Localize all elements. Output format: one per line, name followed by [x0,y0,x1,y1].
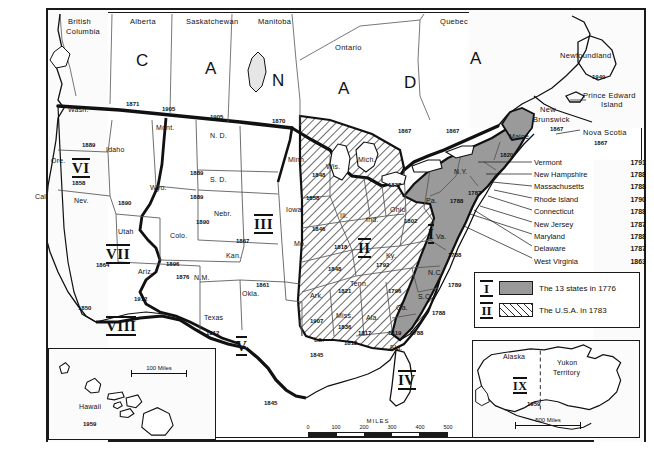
callout-row: Rhode Island 1790 [534,193,646,205]
state-label: Ind. [366,216,378,223]
state-label: N.M. [194,274,210,281]
callout-state-name: Rhode Island [534,195,578,204]
callout-state-name: Maryland [534,232,565,241]
callout-state-year: 1863 [630,258,646,265]
region-marker-i: I [428,224,434,244]
province-label: British [68,18,91,26]
northeast-state-callouts: Vermont 1791 New Hampshire 1788 Massachu… [534,156,646,268]
province-label: Prince Edward [583,92,636,100]
province-label: Brunswick [533,116,570,124]
callout-state-year: 1788 [630,171,646,178]
region-marker-iv: IV [398,370,416,390]
state-label: Pa. [426,197,437,204]
province-label: Newfoundland [560,52,612,60]
region-marker-viii: VIII [106,316,136,336]
legend-swatch-hatch [499,303,533,317]
state-label: Mont. [156,124,175,131]
alaska-scale-bar [515,425,581,426]
callout-state-year: 1788 [630,233,646,240]
callout-state-name: Massachusetts [534,182,584,191]
state-label: Ark. [310,292,323,299]
scale-tick: 300 [387,424,396,430]
date-label: 1819 [388,330,401,336]
alaska-region-marker: IX [513,377,527,394]
legend-label-usa-1783: The U.S.A. in 1783 [539,306,607,315]
date-label: 1788 [432,310,445,316]
state-label: Ohio [390,206,406,213]
alaska-label: Alaska [503,353,525,360]
date-label: 1820 [500,152,513,158]
callout-state-name: Vermont [534,158,562,167]
state-label: Ill. [340,212,348,219]
date-label: 1821 [338,288,351,294]
state-label: Texas [204,314,223,321]
date-label: 1876 [176,274,189,280]
region-marker-v: V [236,336,247,356]
state-label: Miss. [336,312,353,319]
date-label: 1817 [358,330,371,336]
date-label: 1787 [468,190,481,196]
callout-state-year: 1787 [630,245,646,252]
date-label: 1792 [376,262,389,268]
callout-state-year: 1787 [630,221,646,228]
state-label: Wyo. [150,184,167,191]
scale-tick: 100 [331,424,340,430]
date-label: 1889 [190,194,203,200]
date-label: 1812 [344,340,357,346]
date-label: 1788 [448,252,461,258]
date-label: 1890 [118,200,131,206]
date-label: 1845 [310,352,323,358]
date-label: 1789 [448,282,461,288]
date-label: 1861 [256,282,269,288]
state-label: Okla. [242,290,259,297]
date-label: 1788 [410,330,423,336]
state-label: Ore. [51,157,65,164]
region-marker-ii: II [358,238,371,258]
hawaii-inset: Hawaii 1959 100 Miles [48,348,216,440]
state-label: S.C. [418,293,432,300]
date-label: 1848 [328,266,341,272]
date-label: 1836 [338,324,351,330]
state-label: Wis. [326,163,340,170]
date-label: 1867 [550,126,563,132]
date-label: 1867 [446,128,459,134]
alaska-scale-label: 500 Miles [515,417,581,423]
date-label: 1889 [82,142,95,148]
state-label: Mo. [294,240,306,247]
state-label: Ga. [396,304,408,311]
state-label: N. D. [210,132,227,139]
date-label: 1837 [388,182,401,188]
yukon-label-1: Yukon [557,359,577,366]
state-label: Minn. [288,156,306,163]
date-label: 1896 [166,261,179,267]
date-label: 1867 [594,140,607,146]
province-label: New [540,106,556,114]
state-label: N.C. [428,269,443,276]
hawaii-scale-bar [131,373,187,374]
legend-swatch-solid [499,281,533,295]
state-label: Wash. [68,106,89,113]
callout-row: Delaware 1787 [534,243,646,255]
callout-row: Connecticut 1788 [534,206,646,218]
region-marker-iii: III [254,214,273,234]
legend-roman-i: I [480,280,493,297]
alaska-year: 1959 [527,401,540,407]
date-label: 1845 [264,400,277,406]
date-label: 1850 [78,305,91,311]
canada-letter: A [205,60,217,77]
canada-letter: A [470,50,482,67]
main-scale-bar: MILES 0 100 200 300 400 500 [308,418,448,437]
scale-tick: 200 [359,424,368,430]
province-label: Manitoba [258,18,291,26]
callout-state-name: Connecticut [534,207,574,216]
state-label: Cal. [35,193,48,200]
canada-letter: C [136,52,149,69]
province-label: Saskatchewan [186,18,238,26]
state-label: Ariz. [138,268,153,275]
callout-state-name: West Virginia [534,257,578,266]
state-label: Maine [509,133,529,140]
province-label: Ontario [335,44,362,52]
state-label: Ky. [386,252,396,259]
date-label: 1846 [312,226,325,232]
alaska-inset: Alaska Yukon Territory IX 1959 500 Miles [472,340,640,438]
